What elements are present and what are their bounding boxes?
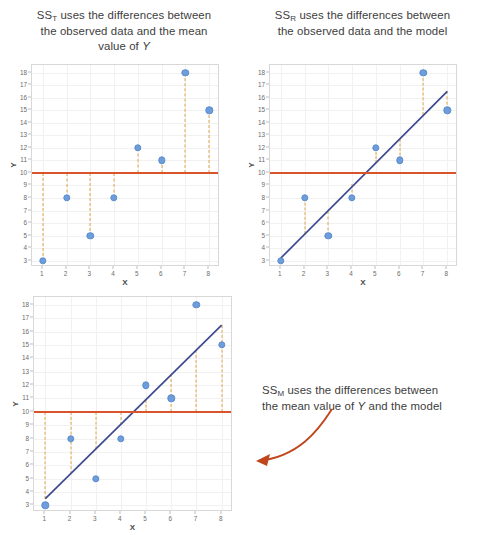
x-axis-tick-mark bbox=[374, 266, 375, 269]
data-point bbox=[206, 106, 213, 113]
y-axis-tick-mark bbox=[266, 109, 269, 110]
chart-ss-residual: 345678910111213141516171812345678XY bbox=[248, 58, 463, 283]
x-axis-tick-mark bbox=[303, 266, 304, 269]
x-axis-tick-label: 2 bbox=[302, 270, 306, 277]
y-axis-tick-label: 9 bbox=[12, 421, 29, 428]
y-axis-tick-label: 18 bbox=[10, 68, 27, 75]
caption-ss-total-var-y: Y bbox=[142, 40, 150, 52]
gridline-horizontal bbox=[32, 211, 218, 212]
caption-ss-total: SST uses the differences between the obs… bbox=[34, 8, 214, 54]
y-axis-tick-label: 14 bbox=[12, 354, 29, 361]
y-axis-tick-label: 3 bbox=[10, 256, 27, 263]
x-axis-tick-label: 3 bbox=[326, 270, 330, 277]
y-axis-tick-mark bbox=[28, 109, 31, 110]
x-axis-tick-mark bbox=[89, 266, 90, 269]
data-point bbox=[63, 194, 70, 201]
y-axis-tick-mark bbox=[30, 370, 33, 371]
gridline-horizontal bbox=[32, 85, 218, 86]
y-axis-tick-label: 8 bbox=[10, 193, 27, 200]
x-axis-tick-label: 8 bbox=[219, 515, 223, 522]
y-axis-tick-label: 8 bbox=[248, 193, 265, 200]
y-axis-tick-mark bbox=[30, 384, 33, 385]
y-axis-tick-mark bbox=[30, 504, 33, 505]
difference-dashed-line bbox=[42, 173, 43, 261]
plot-area bbox=[269, 64, 457, 266]
data-point bbox=[134, 144, 141, 151]
y-axis-tick-label: 13 bbox=[248, 131, 265, 138]
mean-value-line bbox=[34, 411, 231, 413]
ss-total-subscript: T bbox=[52, 14, 57, 23]
mean-value-line bbox=[32, 172, 218, 174]
x-axis-tick-mark bbox=[184, 266, 185, 269]
ss-model-subscript: M bbox=[277, 389, 284, 398]
x-axis-tick-mark bbox=[160, 266, 161, 269]
x-axis-tick-mark bbox=[220, 511, 221, 514]
y-axis-tick-mark bbox=[28, 71, 31, 72]
plot-area bbox=[33, 296, 232, 511]
x-axis-tick-mark bbox=[398, 266, 399, 269]
difference-dashed-line bbox=[90, 173, 91, 236]
y-axis-tick-mark bbox=[28, 96, 31, 97]
x-axis-label: X bbox=[130, 523, 135, 532]
gridline-horizontal bbox=[32, 198, 218, 199]
y-axis-tick-label: 17 bbox=[12, 314, 29, 321]
x-axis-tick-mark bbox=[44, 511, 45, 514]
y-axis-tick-mark bbox=[28, 259, 31, 260]
ss-model-symbol: SS bbox=[262, 384, 277, 396]
y-axis-tick-mark bbox=[266, 259, 269, 260]
y-axis-tick-mark bbox=[266, 159, 269, 160]
caption-ss-residual: SSR uses the differences between the obs… bbox=[265, 8, 460, 39]
y-axis-tick-label: 4 bbox=[12, 487, 29, 494]
y-axis-tick-mark bbox=[30, 477, 33, 478]
x-axis-tick-mark bbox=[145, 511, 146, 514]
data-point bbox=[110, 194, 117, 201]
gridline-horizontal bbox=[32, 261, 218, 262]
ss-residual-line1-rest: uses the differences between bbox=[296, 9, 450, 21]
y-axis-label: Y bbox=[11, 401, 20, 406]
y-axis-tick-label: 5 bbox=[12, 474, 29, 481]
x-axis-tick-label: 7 bbox=[421, 270, 425, 277]
y-axis-tick-mark bbox=[266, 234, 269, 235]
y-axis-tick-mark bbox=[266, 146, 269, 147]
x-axis-tick-mark bbox=[136, 266, 137, 269]
y-axis-tick-label: 12 bbox=[10, 143, 27, 150]
x-axis-tick-label: 8 bbox=[207, 270, 211, 277]
y-axis-tick-label: 7 bbox=[10, 206, 27, 213]
x-axis-tick-mark bbox=[41, 266, 42, 269]
y-axis-tick-mark bbox=[28, 247, 31, 248]
x-axis-tick-label: 6 bbox=[397, 270, 401, 277]
y-axis-tick-label: 18 bbox=[12, 301, 29, 308]
gridline-horizontal bbox=[32, 160, 218, 161]
y-axis-tick-mark bbox=[266, 247, 269, 248]
y-axis-tick-mark bbox=[30, 490, 33, 491]
x-axis-tick-mark bbox=[170, 511, 171, 514]
x-axis-tick-label: 4 bbox=[111, 270, 115, 277]
y-axis-tick-mark bbox=[266, 71, 269, 72]
y-axis-tick-label: 14 bbox=[10, 118, 27, 125]
y-axis-tick-label: 10 bbox=[248, 168, 265, 175]
y-axis-tick-label: 10 bbox=[12, 407, 29, 414]
ss-total-symbol: SS bbox=[37, 9, 52, 21]
y-axis-tick-label: 6 bbox=[248, 219, 265, 226]
y-axis-tick-label: 14 bbox=[248, 118, 265, 125]
y-axis-tick-mark bbox=[266, 84, 269, 85]
data-point bbox=[39, 257, 46, 264]
y-axis-tick-label: 6 bbox=[12, 461, 29, 468]
y-axis-tick-label: 3 bbox=[248, 256, 265, 263]
y-axis-tick-mark bbox=[28, 234, 31, 235]
x-axis-tick-label: 4 bbox=[349, 270, 353, 277]
ss-total-line1-rest: uses the differences between bbox=[57, 9, 211, 21]
chart-ss-total: 345678910111213141516171812345678XY bbox=[10, 58, 225, 283]
data-point bbox=[158, 157, 165, 164]
x-axis-tick-label: 5 bbox=[373, 270, 377, 277]
y-axis-tick-label: 13 bbox=[10, 131, 27, 138]
y-axis-tick-mark bbox=[30, 357, 33, 358]
y-axis-tick-label: 15 bbox=[10, 106, 27, 113]
y-axis-tick-mark bbox=[266, 121, 269, 122]
difference-dashed-line bbox=[185, 73, 186, 173]
x-axis-tick-label: 1 bbox=[43, 515, 47, 522]
x-axis-tick-mark bbox=[279, 266, 280, 269]
x-axis-tick-label: 6 bbox=[169, 515, 173, 522]
y-axis-tick-mark bbox=[30, 317, 33, 318]
x-axis-tick-mark bbox=[113, 266, 114, 269]
